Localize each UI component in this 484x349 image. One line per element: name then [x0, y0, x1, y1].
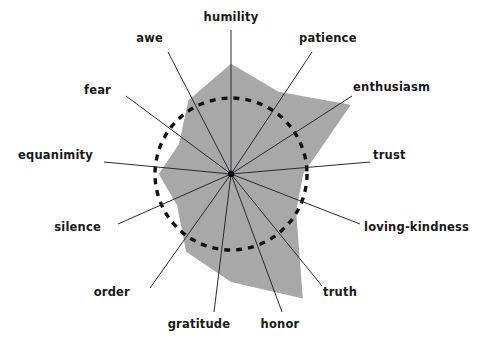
- axis-label-fear: fear: [84, 85, 111, 97]
- axis-label-order: order: [94, 287, 130, 299]
- radar-chart-figure: humility awe patience fear enthusiasm eq…: [0, 0, 484, 349]
- center-point: [228, 171, 234, 177]
- axis-label-patience: patience: [299, 33, 357, 45]
- axis-label-humility: humility: [204, 12, 259, 24]
- radar-chart-canvas: [0, 0, 484, 349]
- axis-label-awe: awe: [136, 33, 163, 45]
- axis-label-loving-kindness: loving-kindness: [364, 222, 469, 234]
- axis-label-enthusiasm: enthusiasm: [353, 82, 430, 94]
- axis-label-honor: honor: [261, 319, 300, 331]
- axis-label-gratitude: gratitude: [168, 319, 231, 331]
- radar-data-polygon: [159, 64, 351, 299]
- axis-label-equanimity: equanimity: [18, 150, 93, 162]
- axis-label-silence: silence: [54, 222, 101, 234]
- axis-label-trust: trust: [373, 150, 406, 162]
- axis-label-truth: truth: [323, 287, 357, 299]
